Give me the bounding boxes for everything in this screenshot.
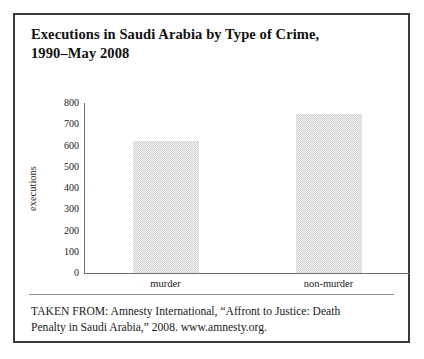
- bar-murder: [133, 141, 199, 273]
- x-axis-line: [84, 273, 410, 274]
- x-axis-category-labels: murdernon-murder: [15, 278, 408, 298]
- figure-title: Executions in Saudi Arabia by Type of Cr…: [31, 25, 391, 63]
- bar-non-murder: [296, 114, 362, 273]
- bar-chart: executions 0100200300400500600700800 mur…: [15, 75, 408, 293]
- citation-divider: [29, 294, 394, 295]
- x-axis-category-label: murder: [106, 278, 226, 289]
- figure-citation: TAKEN FROM: Amnesty International, “Affr…: [31, 304, 395, 337]
- figure-citation-line-1: TAKEN FROM: Amnesty International, “Affr…: [31, 304, 395, 320]
- figure-citation-line-2: Penalty in Saudi Arabia,” 2008. www.amne…: [31, 320, 395, 336]
- figure-title-line-2: 1990–May 2008: [31, 44, 391, 63]
- figure-title-line-1: Executions in Saudi Arabia by Type of Cr…: [31, 25, 391, 44]
- figure-frame: Executions in Saudi Arabia by Type of Cr…: [13, 13, 410, 343]
- bars-layer: [15, 75, 408, 273]
- x-axis-category-label: non-murder: [269, 278, 389, 289]
